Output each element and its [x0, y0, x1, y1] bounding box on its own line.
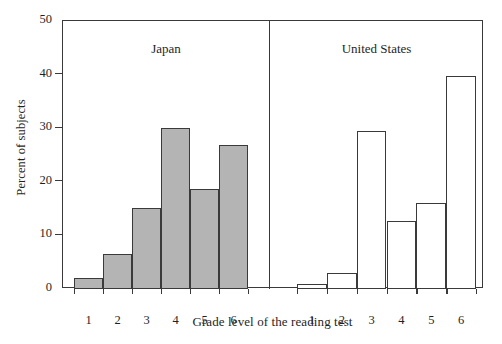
- bar: [357, 131, 387, 289]
- histogram-figure: Percent of subjects 01020304050 Japan Un…: [0, 0, 502, 344]
- y-axis-tick-mark: [55, 180, 62, 181]
- bars-japan: [63, 21, 269, 289]
- panel-japan: Japan: [63, 21, 269, 289]
- x-axis-tick-mark: [297, 289, 298, 294]
- x-axis-tick-mark: [74, 289, 75, 294]
- x-axis-tick-mark: [248, 289, 249, 294]
- x-axis-tick-mark: [446, 289, 447, 294]
- bar: [132, 208, 161, 289]
- y-axis-tick-label: 40: [26, 67, 52, 80]
- x-axis-tick-mark: [219, 289, 220, 294]
- bar: [161, 128, 190, 289]
- bar: [446, 76, 476, 289]
- y-axis-tick-mark: [55, 73, 62, 74]
- y-axis-tick-labels: 01020304050: [22, 0, 52, 344]
- y-axis-tick-label: 10: [26, 227, 52, 240]
- x-axis-tick-mark: [476, 289, 477, 294]
- x-axis-tick-mark: [416, 289, 417, 294]
- y-axis-tick-mark: [55, 234, 62, 235]
- y-axis-tick-label: 20: [26, 174, 52, 187]
- bar: [297, 284, 327, 289]
- y-axis-tick-label: 50: [26, 13, 52, 26]
- x-axis-tick-mark: [161, 289, 162, 294]
- bar: [416, 203, 446, 289]
- bar: [74, 278, 103, 289]
- x-axis-tick-mark: [387, 289, 388, 294]
- x-axis-tick-mark: [357, 289, 358, 294]
- y-axis-tick-mark: [55, 127, 62, 128]
- plot-area: Japan United States 123456123456: [62, 20, 483, 288]
- x-axis-tick-mark: [103, 289, 104, 294]
- bar: [327, 273, 357, 289]
- bar: [190, 189, 219, 289]
- x-axis-tick-mark: [190, 289, 191, 294]
- panel-united-states: United States: [270, 21, 483, 289]
- bars-united-states: [270, 21, 483, 289]
- bar: [219, 145, 248, 289]
- y-axis-tick-label: 0: [26, 281, 52, 294]
- x-axis-tick-mark: [327, 289, 328, 294]
- bar: [103, 254, 132, 289]
- x-axis-title: Grade level of the reading test: [62, 314, 483, 330]
- bar: [387, 221, 417, 289]
- y-axis-tick-label: 30: [26, 120, 52, 133]
- x-axis-tick-mark: [132, 289, 133, 294]
